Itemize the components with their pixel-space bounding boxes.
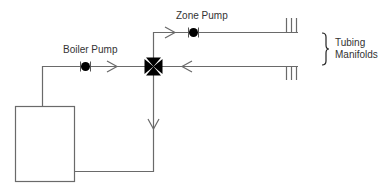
zone-supply-pipe bbox=[154, 33, 299, 61]
zone-pump-label: Zone Pump bbox=[176, 10, 228, 21]
manifolds-label-line1: Tubing bbox=[335, 37, 365, 48]
brace-icon bbox=[322, 33, 329, 65]
manifolds-label-line2: Manifolds bbox=[335, 49, 378, 60]
boiler-pump-label: Boiler Pump bbox=[63, 44, 118, 55]
zone-pump-icon bbox=[189, 28, 199, 38]
boiler-return-pipe bbox=[75, 73, 154, 172]
boiler-supply-pipe bbox=[43, 67, 147, 107]
boiler-box bbox=[16, 107, 75, 182]
mixing-valve-icon bbox=[145, 58, 163, 76]
hydronic-piping-diagram: Boiler Pump Zone Pump Tubing Manifolds bbox=[0, 0, 390, 190]
supply-manifold-icon bbox=[287, 18, 297, 32]
boiler-pump-icon bbox=[81, 62, 91, 72]
return-manifold-icon bbox=[287, 66, 297, 80]
